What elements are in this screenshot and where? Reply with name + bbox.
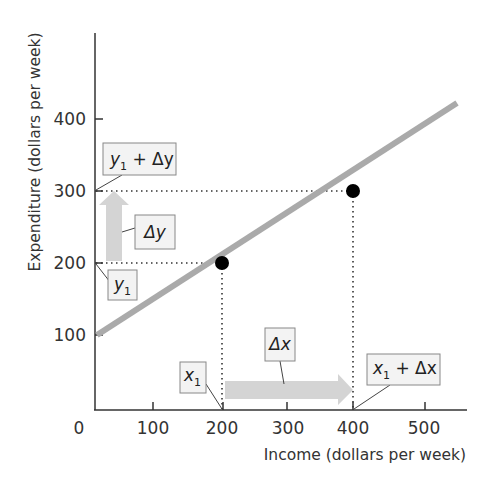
delta-y-arrow [99,191,129,261]
y-tick-labels: 400 300 200 100 [54,109,86,345]
svg-text:0: 0 [74,418,85,438]
label-delta-x: Δx [265,328,295,361]
svg-text:400: 400 [337,418,369,438]
svg-text:Δy: Δy [142,222,167,242]
svg-text:300: 300 [54,181,86,201]
x-axis-label: Income (dollars per week) [264,446,466,464]
svg-text:100: 100 [54,325,86,345]
point-200-200 [215,256,229,270]
svg-text:200: 200 [206,418,238,438]
svg-text:400: 400 [54,109,86,129]
leader-lines [96,175,390,409]
svg-text:200: 200 [54,253,86,273]
label-x1: x1 [180,362,206,393]
svg-text:100: 100 [137,418,169,438]
delta-x-arrow [225,374,353,405]
label-x1-plus-dx: x1 + Δx [367,354,440,385]
svg-text:300: 300 [272,418,304,438]
label-y1-plus-dy: y1 + Δy [103,143,176,175]
y-axis-label: Expenditure (dollars per week) [26,32,44,271]
label-delta-y: Δy [135,215,175,249]
svg-text:500: 500 [408,418,440,438]
chart: 400 300 200 100 0 100 200 300 400 500 In… [0,0,486,482]
label-y1: y1 [108,270,137,300]
x-tick-labels: 0 100 200 300 400 500 [74,418,441,438]
svg-text:Δx: Δx [267,334,292,354]
point-400-300 [346,184,360,198]
